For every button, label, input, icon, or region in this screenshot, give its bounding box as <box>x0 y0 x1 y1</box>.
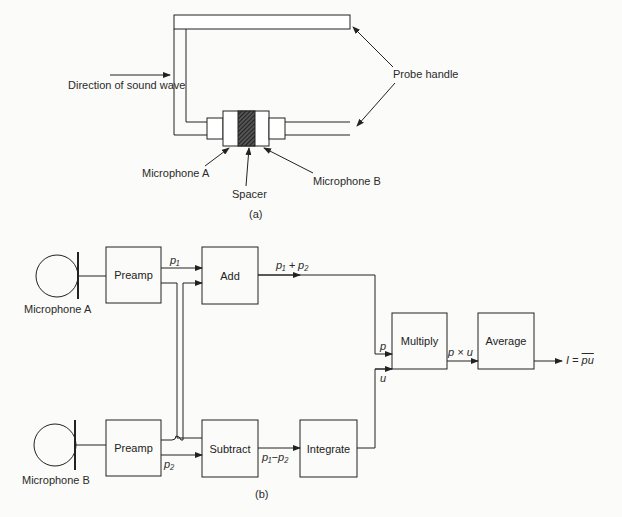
probe-handle-label: Probe handle <box>393 68 458 80</box>
caption-a: (a) <box>249 208 262 220</box>
integrate-block: Integrate <box>300 420 357 477</box>
output-intensity: I = pu <box>566 354 594 366</box>
direction-label: Direction of sound wave <box>68 79 185 91</box>
caption-b: (b) <box>255 488 268 500</box>
signal-product: p × u <box>448 346 473 358</box>
mic-b-label: Microphone B <box>313 175 381 187</box>
subtract-block: Subtract <box>202 420 258 477</box>
spacer-label: Spacer <box>232 188 267 200</box>
signal-u: u <box>380 372 386 384</box>
add-block: Add <box>202 247 258 304</box>
mic-a-b-label: Microphone A <box>24 303 91 315</box>
average-block: Average <box>478 313 534 369</box>
signal-diff: p₁−p₂ <box>262 451 288 463</box>
mic-a-label: Microphone A <box>142 167 209 179</box>
multiply-block: Multiply <box>392 313 447 369</box>
probe-drawing <box>110 15 395 186</box>
mic-b-b-label: Microphone B <box>22 474 90 486</box>
signal-p2: p₂ <box>164 458 174 470</box>
preamp-b-block: Preamp <box>106 420 161 476</box>
preamp-a-block: Preamp <box>106 247 161 303</box>
signal-p: p <box>380 340 386 352</box>
signal-p1: p₁ <box>170 254 180 266</box>
signal-sum: p₁ + p₂ <box>276 259 308 271</box>
